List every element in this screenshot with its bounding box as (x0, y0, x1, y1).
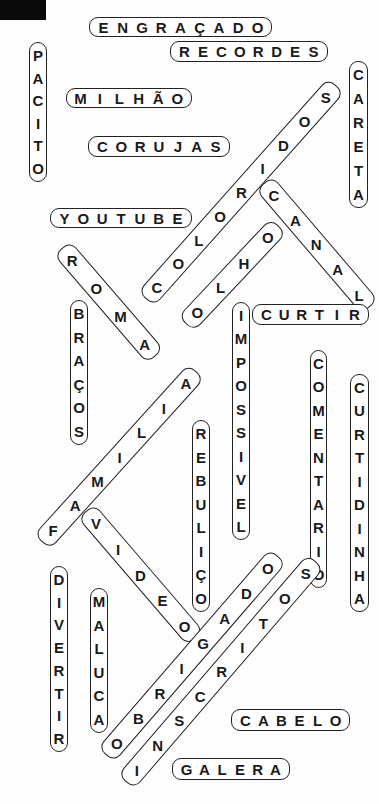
letter: F (46, 522, 60, 537)
letter: I (351, 521, 368, 536)
letter: O (76, 211, 91, 226)
letter: A (71, 353, 87, 368)
letter: H (351, 568, 368, 583)
letter: A (217, 611, 231, 626)
letter: L (134, 425, 148, 440)
letter: R (294, 307, 309, 322)
letter: V (51, 617, 67, 632)
letter: P (233, 355, 249, 370)
letter: E (156, 593, 170, 608)
letter: M (91, 594, 107, 609)
letter: U (277, 307, 292, 322)
letter: O (190, 304, 204, 319)
letter: A (212, 20, 227, 35)
letter: I (233, 449, 249, 464)
letter: N (115, 20, 130, 35)
word-familia: FAMILIA (34, 364, 204, 549)
letter: E (292, 713, 307, 728)
letter: T (350, 163, 367, 178)
letter: S (233, 402, 249, 417)
letter: B (131, 710, 145, 725)
letter: T (351, 450, 368, 465)
letter: I (351, 474, 368, 489)
letter: C (351, 380, 368, 395)
letter: T (311, 473, 326, 488)
letter: P (30, 48, 46, 63)
letter: R (71, 330, 87, 345)
word-impossivel: IMPOSSIVEL (232, 302, 250, 540)
letter: O (328, 713, 343, 728)
letter: O (171, 256, 185, 271)
letter: A (351, 591, 368, 606)
letter: I (112, 449, 126, 464)
letter: I (51, 708, 67, 723)
letter: D (231, 20, 246, 35)
letter: B (274, 713, 289, 728)
letter: C (311, 356, 326, 371)
letter: Ç (192, 20, 207, 35)
letter: R (350, 115, 367, 130)
letter: A (256, 713, 271, 728)
letter: L (215, 762, 230, 777)
letter: L (352, 287, 366, 302)
word-rebulico: REBULIÇO (192, 420, 210, 612)
letter: L (213, 279, 227, 294)
letter: R (250, 762, 265, 777)
letter: R (133, 139, 148, 154)
letter: D (269, 44, 284, 59)
letter: C (268, 188, 282, 203)
letter: O (110, 735, 124, 750)
letter: I (51, 595, 67, 610)
letter: D (351, 497, 368, 512)
letter: O (260, 230, 274, 245)
letter: O (90, 281, 104, 296)
letter: D (51, 572, 67, 587)
word-youtube: YOUTUBE (50, 208, 192, 228)
letter: R (347, 307, 362, 322)
letter: M (114, 309, 128, 324)
letter: G (196, 636, 210, 651)
letter: T (312, 307, 327, 322)
letter: A (197, 762, 212, 777)
letter: O (250, 20, 265, 35)
letter: A (350, 91, 367, 106)
letter: V (233, 472, 249, 487)
letter: T (51, 686, 67, 701)
letter: R (193, 426, 209, 441)
letter: V (90, 516, 104, 531)
letter: U (91, 665, 107, 680)
letter: A (289, 213, 303, 228)
letter: A (91, 618, 107, 633)
letter: A (350, 187, 367, 202)
letter: A (173, 20, 188, 35)
word-comentario: COMENTARIO (310, 350, 327, 588)
letter: M (311, 403, 326, 418)
letter: B (71, 306, 87, 321)
letter: S (71, 424, 87, 439)
letter: A (189, 139, 204, 154)
letter: E (193, 450, 209, 465)
letter: N (310, 237, 324, 252)
letter: E (288, 44, 303, 59)
letter: L (233, 519, 249, 534)
letter: L (91, 641, 107, 656)
letter: N (351, 544, 368, 559)
letter: C (30, 93, 46, 108)
letter: H (131, 91, 146, 106)
letter: C (214, 44, 229, 59)
letter: Y (57, 211, 72, 226)
letter: T (113, 211, 128, 226)
letter: Ã (151, 91, 166, 106)
letter: O (30, 161, 46, 176)
letter: O (260, 561, 274, 576)
word-corujas: CORUJAS (88, 136, 230, 157)
letter: O (277, 590, 291, 605)
letter: M (233, 331, 249, 346)
letter: J (170, 139, 185, 154)
letter: I (235, 639, 249, 654)
letter: O (114, 139, 129, 154)
letter: R (251, 44, 266, 59)
letter: R (153, 685, 167, 700)
word-pacito: PACITO (29, 42, 47, 182)
letter: R (177, 44, 192, 59)
